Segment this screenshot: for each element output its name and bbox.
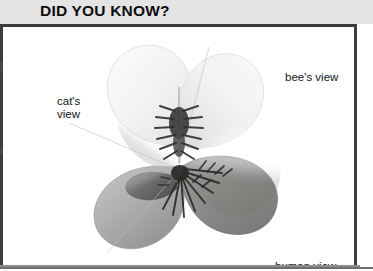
page-title: DID YOU KNOW? <box>40 2 170 20</box>
pansy-flower-graphic <box>3 27 354 265</box>
panel-border-bottom-outer <box>0 267 373 269</box>
label-cats-view: cat's view <box>57 95 80 121</box>
label-bees-view: bee's view <box>285 71 338 84</box>
panel-margin-right <box>357 24 373 271</box>
did-you-know-panel: DID YOU KNOW? <box>0 0 373 271</box>
label-human-view: human view <box>275 260 336 265</box>
flower-illustration: bee's view cat's view human view <box>3 27 354 265</box>
